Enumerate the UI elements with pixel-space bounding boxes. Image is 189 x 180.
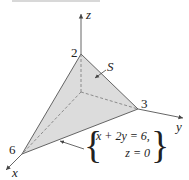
surface-label: S [107, 59, 114, 74]
boundary-pointer-arrow [60, 141, 84, 149]
z-intercept-label: 2 [71, 45, 78, 60]
x-intercept-label: 6 [9, 142, 16, 157]
right-brace: } [151, 124, 169, 166]
y-intercept-label: 3 [141, 96, 148, 111]
z-axis-label: z [85, 7, 91, 22]
x-axis-label: x [11, 165, 18, 180]
equation-line-1: x + 2y = 6, [95, 129, 150, 143]
triangular-surface-diagram: z y x 2 3 6 S { } x + 2y = 6, z = 0 [0, 0, 189, 180]
y-axis-label: y [174, 119, 182, 134]
equation-line-2: z = 0 [124, 146, 150, 160]
